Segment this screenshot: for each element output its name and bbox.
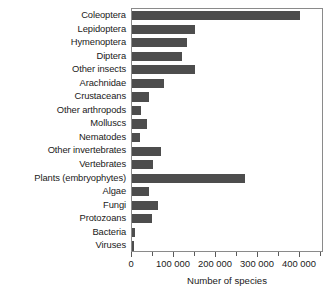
bar-row: [132, 239, 322, 252]
category-label: Other arthropods: [0, 103, 131, 117]
bar: [132, 92, 149, 101]
bar: [132, 228, 135, 237]
bar-row: [132, 144, 322, 158]
category-label: Molluscs: [0, 116, 131, 130]
category-label: Nematodes: [0, 130, 131, 144]
x-tick-minor: [152, 252, 153, 256]
bar-row: [132, 90, 322, 104]
bar-row: [132, 172, 322, 186]
bar: [132, 147, 161, 156]
bar-row: [132, 212, 322, 226]
x-tick-minor: [236, 252, 237, 256]
bar-row: [132, 63, 322, 77]
bar: [132, 38, 187, 47]
category-label: Arachnidae: [0, 76, 131, 90]
bar-row: [132, 104, 322, 118]
category-label: Bacteria: [0, 225, 131, 239]
x-tick-minor: [194, 252, 195, 256]
x-tick-minor: [320, 252, 321, 256]
x-tick-label: 200 000: [198, 258, 232, 269]
x-tick-label: 400 000: [282, 258, 316, 269]
category-label: Vertebrates: [0, 157, 131, 171]
bar: [132, 241, 134, 250]
x-tick-major: [299, 252, 300, 257]
category-label: Diptera: [0, 49, 131, 63]
bar: [132, 201, 158, 210]
x-tick-major: [131, 252, 132, 257]
x-axis-title: Number of species: [131, 275, 323, 286]
bar-row: [132, 226, 322, 240]
x-tick-minor: [278, 252, 279, 256]
x-tick-major: [173, 252, 174, 257]
bar-row: [132, 185, 322, 199]
x-tick-label: 0: [128, 258, 133, 269]
x-tick-major: [215, 252, 216, 257]
category-label: Fungi: [0, 198, 131, 212]
bar-row: [132, 50, 322, 64]
category-label: Hymenoptera: [0, 35, 131, 49]
bar-row: [132, 131, 322, 145]
x-axis-tick-labels: 0100 000200 000300 000400 000: [0, 258, 334, 272]
bar: [132, 119, 147, 128]
plot-area: [131, 8, 323, 252]
category-label: Other invertebrates: [0, 143, 131, 157]
category-label-column: ColeopteraLepidopteraHymenopteraDipteraO…: [0, 8, 131, 252]
bar: [132, 160, 153, 169]
bar-row: [132, 9, 322, 23]
bar: [132, 133, 140, 142]
category-label: Viruses: [0, 238, 131, 252]
category-label: Algae: [0, 184, 131, 198]
bar: [132, 187, 149, 196]
bar-row: [132, 36, 322, 50]
bar-series: [132, 9, 322, 251]
bar: [132, 25, 195, 34]
category-label: Protozoans: [0, 211, 131, 225]
bar-row: [132, 199, 322, 213]
bar: [132, 11, 300, 20]
bar: [132, 214, 152, 223]
bar: [132, 106, 141, 115]
category-label: Other insects: [0, 62, 131, 76]
x-tick-label: 100 000: [156, 258, 190, 269]
bar: [132, 174, 245, 183]
x-tick-major: [257, 252, 258, 257]
bar: [132, 79, 164, 88]
bar: [132, 52, 182, 61]
bar: [132, 65, 195, 74]
x-tick-label: 300 000: [240, 258, 274, 269]
bar-row: [132, 117, 322, 131]
species-bar-chart: ColeopteraLepidopteraHymenopteraDipteraO…: [0, 0, 334, 298]
category-label: Coleoptera: [0, 8, 131, 22]
category-label: Plants (embryophytes): [0, 171, 131, 185]
category-label: Crustaceans: [0, 89, 131, 103]
category-label: Lepidoptera: [0, 22, 131, 36]
bar-row: [132, 158, 322, 172]
bar-row: [132, 23, 322, 37]
bar-row: [132, 77, 322, 91]
